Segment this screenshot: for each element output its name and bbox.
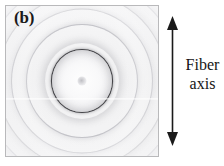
arrow-head-down (167, 132, 178, 146)
fiber-axis-caption-line-1: Fiber (181, 56, 224, 75)
double-headed-vertical-arrow-icon (164, 16, 181, 146)
figure-root: (b) Fiber axis (0, 0, 224, 166)
fiber-axis-caption-line-2: axis (181, 75, 224, 94)
scan-line-artifact (6, 98, 158, 100)
arrow-head-up (167, 16, 178, 30)
arrow-svg (164, 16, 181, 146)
fiber-axis-caption: Fiber axis (181, 56, 224, 94)
panel-label: (b) (14, 9, 34, 26)
beam-stop-shadow (78, 77, 87, 86)
diffraction-pattern-panel: (b) (5, 5, 159, 157)
